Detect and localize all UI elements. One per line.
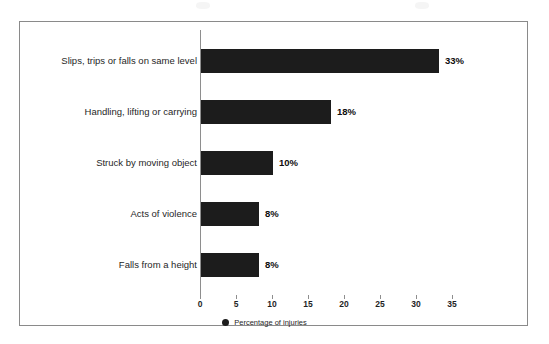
legend-item-label: Percentage of injuries [234, 318, 307, 327]
legend: Percentage of injuries [20, 314, 527, 330]
bar-category-label: Acts of violence [0, 202, 197, 226]
bar-value-label: 8% [265, 253, 279, 277]
bar-fill[interactable] [201, 49, 439, 73]
x-axis-tick-label: 25 [365, 299, 395, 309]
bar-fill[interactable] [201, 253, 259, 277]
chart-frame: Slips, trips or falls on same level 33% … [19, 21, 528, 326]
bar-category-label: Falls from a height [0, 253, 197, 277]
bar-row[interactable]: Falls from a height 8% [20, 253, 527, 277]
bar-value-label: 33% [445, 49, 464, 73]
x-axis-tick-label: 10 [257, 299, 287, 309]
x-axis: 0 5 10 15 20 25 30 35 [20, 295, 527, 311]
bar-category-label: Slips, trips or falls on same level [0, 49, 197, 73]
bar-fill[interactable] [201, 100, 331, 124]
bar-category-label: Handling, lifting or carrying [0, 100, 197, 124]
x-axis-tick-label: 35 [437, 299, 467, 309]
x-axis-tick-label: 0 [185, 299, 215, 309]
bar-row[interactable]: Handling, lifting or carrying 18% [20, 100, 527, 124]
bar-fill[interactable] [201, 202, 259, 226]
x-axis-tick-label: 5 [221, 299, 251, 309]
bar-fill[interactable] [201, 151, 273, 175]
bar-row[interactable]: Slips, trips or falls on same level 33% [20, 49, 527, 73]
bar-category-label: Struck by moving object [0, 151, 197, 175]
bar-row[interactable]: Struck by moving object 10% [20, 151, 527, 175]
bar-row[interactable]: Acts of violence 8% [20, 202, 527, 226]
bar-value-label: 10% [279, 151, 298, 175]
x-axis-tick-label: 15 [293, 299, 323, 309]
legend-item[interactable]: Percentage of injuries [222, 318, 307, 327]
x-axis-tick-label: 20 [329, 299, 359, 309]
scan-artifact [0, 0, 549, 14]
bar-value-label: 18% [337, 100, 356, 124]
bar-value-label: 8% [265, 202, 279, 226]
plot-area: Slips, trips or falls on same level 33% … [20, 22, 527, 325]
x-axis-tick-label: 30 [401, 299, 431, 309]
legend-circle-marker-icon [222, 319, 229, 326]
